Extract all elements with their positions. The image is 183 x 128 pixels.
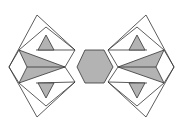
center-hexagon — [77, 50, 113, 83]
right-tiling — [108, 15, 174, 117]
left-tiling — [9, 15, 75, 117]
figure-canvas — [0, 0, 183, 128]
